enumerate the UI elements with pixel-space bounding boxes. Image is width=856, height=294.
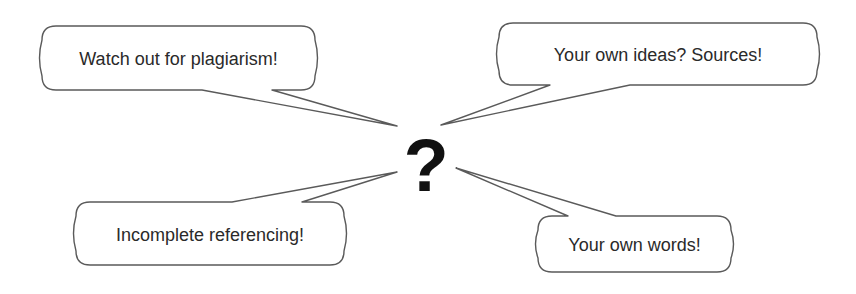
speech-bubble-sources	[441, 23, 820, 125]
diagram-canvas: Watch out for plagiarism! Your own ideas…	[0, 0, 856, 294]
bubble-text-referencing: Incomplete referencing!	[116, 226, 304, 244]
speech-bubble-plagiarism	[40, 26, 398, 126]
speech-bubble-words	[456, 168, 734, 272]
bubble-text-words: Your own words!	[568, 236, 700, 254]
bubble-text-plagiarism: Watch out for plagiarism!	[79, 50, 277, 68]
question-mark-icon: ?	[403, 129, 448, 203]
bubble-text-sources: Your own ideas? Sources!	[554, 46, 762, 64]
speech-bubble-referencing	[74, 172, 398, 265]
